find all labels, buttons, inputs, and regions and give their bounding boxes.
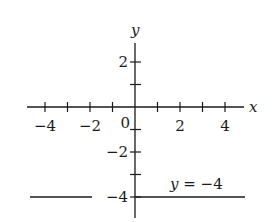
y-tick-label: 2 [118, 53, 128, 71]
origin-label: 0 [120, 114, 130, 132]
y-tick-label: −4 [106, 188, 128, 206]
x-tick-label: 4 [220, 117, 230, 135]
graph-figure: −4−2242−2−40xyy = −4 [0, 0, 280, 222]
x-tick-label: −2 [79, 117, 101, 135]
coordinate-plane: −4−2242−2−40xyy = −4 [0, 0, 280, 222]
equation-label: y = −4 [169, 175, 223, 193]
y-tick-label: −2 [106, 143, 128, 161]
x-tick-label: 2 [175, 117, 185, 135]
x-tick-label: −4 [34, 117, 56, 135]
y-axis-label: y [130, 21, 140, 39]
x-axis-label: x [249, 98, 258, 116]
